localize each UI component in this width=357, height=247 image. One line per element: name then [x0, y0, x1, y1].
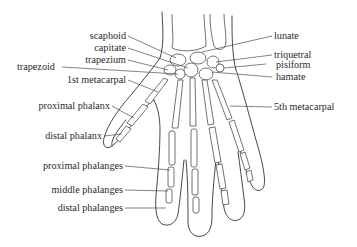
hand-bones-diagram: scaphoid capitate trapezium trapezoid 1s…: [0, 0, 357, 247]
label-scaphoid: scaphoid: [90, 30, 126, 41]
capitate-bone: [184, 63, 198, 77]
carpal-bones: [164, 52, 224, 80]
hamate-bone: [199, 68, 213, 80]
scaphoid-bone: [170, 54, 186, 66]
label-trapezoid: trapezoid: [17, 61, 55, 72]
lunate-bone: [190, 52, 206, 64]
label-lunate: lunate: [274, 30, 299, 41]
label-5th-metacarpal: 5th metacarpal: [274, 101, 334, 112]
label-pisiform: pisiform: [276, 59, 311, 70]
label-1st-metacarpal: 1st metacarpal: [67, 74, 126, 85]
pisiform-bone: [216, 64, 224, 72]
hand-skeleton-illustration: [0, 0, 357, 247]
label-distal-phalanx: distal phalanx: [45, 130, 102, 141]
label-trapezium: trapezium: [85, 54, 126, 65]
thumb-phalanges: [116, 104, 148, 142]
metacarpal-bones: [145, 78, 232, 128]
label-proximal-phalanx: proximal phalanx: [38, 100, 110, 111]
label-capitate: capitate: [94, 42, 126, 53]
label-distal-phalanges: distal phalanges: [58, 202, 123, 213]
label-hamate: hamate: [276, 71, 305, 82]
label-middle-phalanges: middle phalanges: [51, 184, 123, 195]
label-proximal-phalanges: proximal phalanges: [43, 160, 123, 171]
forearm-bones: [172, 14, 226, 51]
